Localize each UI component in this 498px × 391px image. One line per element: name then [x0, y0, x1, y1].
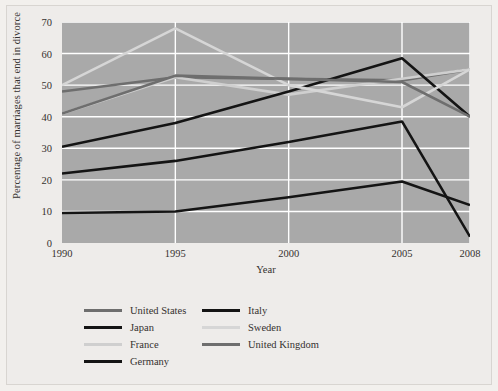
- legend-swatch: [84, 360, 122, 363]
- y-axis-tick-label: 70: [6, 17, 52, 28]
- legend-swatch: [84, 343, 122, 346]
- x-axis-tick-label: 2008: [440, 248, 498, 259]
- plot-svg: [62, 22, 470, 243]
- legend-label: United States: [130, 305, 186, 316]
- chart-legend: United StatesJapanFranceGermany ItalySwe…: [84, 302, 414, 376]
- y-axis-tick-label: 60: [6, 48, 52, 59]
- y-axis-tick-label: 0: [6, 238, 52, 249]
- legend-item: Italy: [202, 302, 362, 319]
- legend-label: United Kingdom: [248, 339, 319, 350]
- x-axis-title: Year: [62, 264, 470, 275]
- legend-swatch: [202, 343, 240, 346]
- legend-column-right: ItalySwedenUnited Kingdom: [202, 302, 362, 353]
- legend-label: France: [130, 339, 159, 350]
- x-axis-tick-label: 2005: [372, 248, 432, 259]
- legend-item: United Kingdom: [202, 336, 362, 353]
- legend-label: Japan: [130, 322, 154, 333]
- series-line: [62, 121, 470, 236]
- line-chart: Percentage of marriages that end in divo…: [0, 0, 498, 391]
- legend-swatch: [84, 326, 122, 329]
- x-axis-tick-label: 1995: [145, 248, 205, 259]
- legend-swatch: [84, 309, 122, 312]
- x-axis-tick-label: 2000: [259, 248, 319, 259]
- legend-item: Sweden: [202, 319, 362, 336]
- series-lines: [62, 28, 470, 236]
- legend-label: Germany: [130, 356, 169, 367]
- legend-swatch: [202, 326, 240, 329]
- y-axis-tick-label: 10: [6, 206, 52, 217]
- legend-swatch: [202, 309, 240, 312]
- series-line: [62, 76, 470, 117]
- y-axis-tick-label: 40: [6, 111, 52, 122]
- y-axis-tick-label: 30: [6, 143, 52, 154]
- x-axis-tick-label: 1990: [32, 248, 92, 259]
- series-line: [62, 181, 470, 213]
- x-axis-tick-labels: 19901995200020052008: [62, 248, 470, 264]
- y-axis-tick-label: 20: [6, 174, 52, 185]
- y-axis-tick-label: 50: [6, 80, 52, 91]
- series-line: [62, 28, 470, 107]
- y-axis-tick-labels: 010203040506070: [0, 22, 58, 243]
- legend-item: Germany: [84, 353, 244, 370]
- figure-root: Percentage of marriages that end in divo…: [0, 0, 498, 391]
- plot-area: [62, 22, 470, 243]
- legend-label: Italy: [248, 305, 267, 316]
- series-line: [62, 69, 470, 113]
- legend-label: Sweden: [248, 322, 281, 333]
